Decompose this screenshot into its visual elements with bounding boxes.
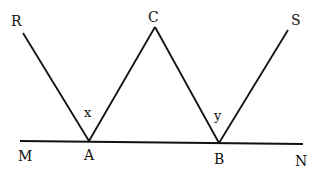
point-label-b: B — [214, 151, 224, 167]
line-mn — [20, 141, 303, 144]
point-label-r: R — [11, 13, 22, 29]
segment-bs — [219, 30, 288, 143]
segment-cb — [155, 27, 219, 143]
point-label-s: S — [291, 12, 301, 28]
segment-ra — [23, 33, 89, 141]
segment-ac — [89, 27, 155, 141]
angle-label-x: x — [84, 105, 92, 120]
point-label-n: N — [295, 153, 307, 169]
geometry-diagram: R C S M A B N x y — [0, 0, 319, 174]
point-label-c: C — [148, 9, 159, 25]
angle-label-y: y — [213, 108, 222, 123]
point-label-a: A — [83, 147, 95, 163]
point-label-m: M — [18, 148, 32, 164]
